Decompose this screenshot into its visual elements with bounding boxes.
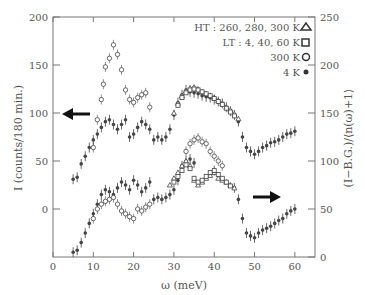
y-right-tick-label: 50	[320, 204, 333, 215]
legend-label: LT : 4, 40, 60 K	[223, 37, 301, 48]
square-icon	[302, 39, 309, 46]
y-axis-left: 050100150200	[29, 12, 60, 215]
legend-label: 4 K	[283, 67, 301, 78]
y-right-tick-label: 0	[320, 252, 326, 263]
x-axis: 0102030405060	[50, 17, 301, 272]
right-arrow-icon	[253, 191, 281, 203]
data-series	[71, 40, 296, 257]
y-left-tick-label: 150	[29, 60, 48, 71]
y-axis-left-label: I (counts/180 min.)	[12, 85, 25, 191]
legend: HT : 260, 280, 300 KLT : 4, 40, 60 K300 …	[194, 22, 311, 78]
left-arrow-icon	[62, 108, 90, 120]
y-left-tick-label: 50	[35, 156, 48, 167]
y-left-tick-label: 100	[29, 108, 48, 119]
y-right-tick-label: 100	[320, 156, 339, 167]
x-tick-label: 50	[248, 261, 261, 272]
triangle-icon	[301, 23, 311, 30]
y-left-tick-label: 200	[29, 12, 48, 23]
x-tick-label: 20	[127, 261, 140, 272]
circle-filled-icon	[304, 70, 309, 75]
y-right-tick-label: 150	[320, 108, 339, 119]
x-tick-label: 60	[288, 261, 301, 272]
legend-label: 300 K	[270, 52, 300, 63]
y-right-tick-label: 200	[320, 60, 339, 71]
series-circle-open	[91, 40, 152, 153]
legend-label: HT : 260, 280, 300 K	[194, 22, 300, 33]
x-tick-label: 10	[87, 261, 100, 272]
series-square-open	[176, 87, 236, 118]
x-axis-label: ω (meV)	[161, 279, 207, 292]
x-tick-label: 0	[50, 261, 56, 272]
x-tick-label: 40	[208, 261, 221, 272]
y-axis-right-label: (I−B.G.)/⟨n(ω)+1⟩	[342, 89, 355, 188]
y-axis-right: 050100150200250	[308, 12, 339, 263]
y-left-tick-label: 0	[42, 204, 48, 215]
circle-open-icon	[303, 54, 310, 61]
x-tick-label: 30	[168, 261, 181, 272]
y-right-tick-label: 250	[320, 12, 339, 23]
chart: 0102030405060 050100150200 0501001502002…	[0, 0, 365, 295]
